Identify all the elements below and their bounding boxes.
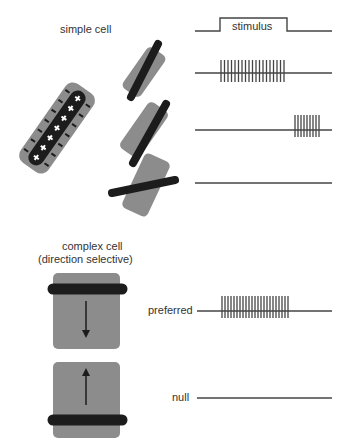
complex-cell-null-field [53,362,122,438]
spike-train-aligned [195,60,332,82]
simple-cell-receptive-field [16,79,99,177]
spike-train-preferred [197,296,332,318]
stimulus-orthogonal [112,152,175,218]
null-label: null [172,391,189,403]
spike-train-offset [195,115,332,137]
stimulus-offset [118,100,170,163]
complex-cell-preferred-field [53,273,122,349]
simple-cell-title: simple cell [60,23,111,35]
receptive-field-diagram: simple cell stimulus complex cell (direc… [0,0,352,448]
stimulus-label: stimulus [232,20,272,32]
stimulus-aligned [121,44,168,99]
complex-cell-subtitle: (direction selective) [38,253,133,265]
diagram-graphics [0,0,352,448]
complex-cell-title: complex cell [62,240,123,252]
preferred-label: preferred [148,304,193,316]
